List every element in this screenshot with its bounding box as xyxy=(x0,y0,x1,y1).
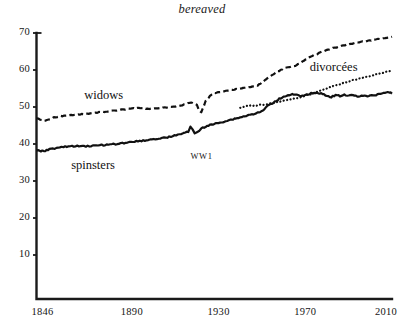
series-label-widows: widows xyxy=(84,88,123,103)
y-axis-tick-label: 40 xyxy=(4,137,30,148)
y-axis-tick-label: 50 xyxy=(4,100,30,111)
series-line-divorces xyxy=(240,70,392,107)
y-axis-tick-label: 60 xyxy=(4,63,30,74)
chart-figure: bereaved 10203040506070 1846189019301970… xyxy=(0,0,404,334)
x-axis-tick-label: 1890 xyxy=(121,306,143,317)
plot-area xyxy=(0,0,404,334)
y-axis-tick-label: 10 xyxy=(4,248,30,259)
y-axis-tick-label: 20 xyxy=(4,211,30,222)
x-axis-tick-label: 1846 xyxy=(31,306,53,317)
x-axis-tick-label: 1930 xyxy=(207,306,229,317)
y-axis-tick-label: 30 xyxy=(4,174,30,185)
annotation-ww1: WW1 xyxy=(190,151,212,161)
x-axis-tick-label: 2010 xyxy=(375,306,397,317)
x-axis-tick-label: 1970 xyxy=(294,306,316,317)
series-line-widows xyxy=(37,37,393,121)
y-axis-tick-label: 70 xyxy=(4,26,30,37)
series-label-spinsters: spinsters xyxy=(71,158,115,173)
series-label-divorces: divorcées xyxy=(310,60,358,75)
